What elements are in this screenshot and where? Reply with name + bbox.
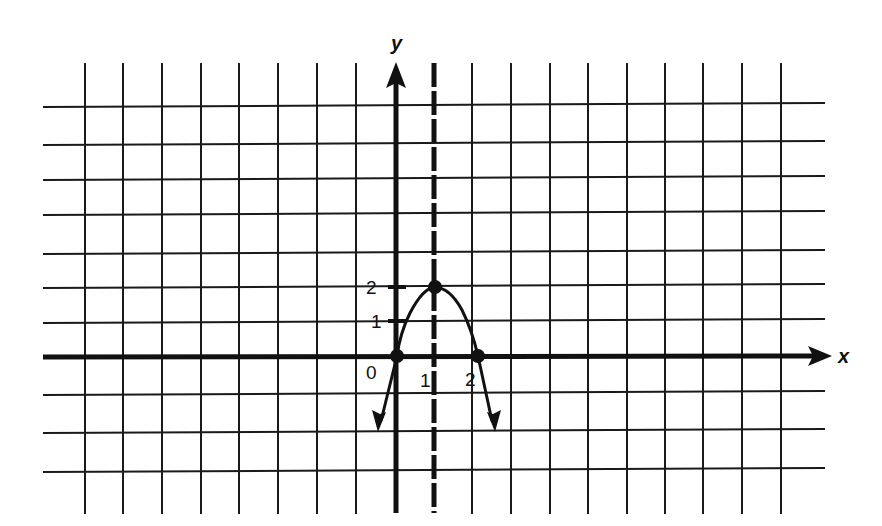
y-axis-label: y — [390, 32, 403, 54]
y-tick-label-1: 1 — [371, 311, 382, 332]
y-tick-label-2: 2 — [366, 277, 377, 298]
right-branch-arrow-icon — [487, 410, 501, 432]
point-vertex — [428, 280, 442, 294]
left-branch-arrow-icon — [372, 410, 386, 432]
x-tick-label-1: 1 — [420, 370, 431, 391]
parabola-graph: x y 0 1 2 1 2 — [0, 0, 882, 526]
x-tick-label-0: 0 — [366, 362, 377, 383]
x-tick-label-2: 2 — [465, 369, 476, 390]
point-x-intercept-2 — [471, 349, 485, 363]
x-axis-label: x — [837, 345, 850, 367]
point-origin — [390, 349, 404, 363]
